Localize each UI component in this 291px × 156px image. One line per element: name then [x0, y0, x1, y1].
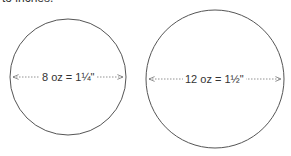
large-circle-label: 12 oz = 1½": [183, 73, 246, 85]
small-circle-label: 8 oz = 1¼": [40, 71, 97, 83]
